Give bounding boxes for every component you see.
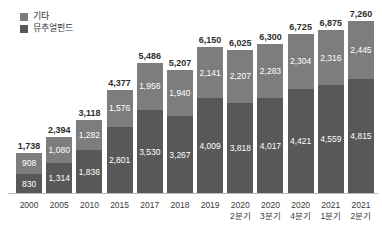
x-axis-tick-label: 20204분기 [286,200,316,221]
bar-total-label: 2,394 [48,126,71,135]
x-axis-tick-line1: 2021 [352,200,371,210]
x-axis-tick-label: 2005 [44,200,74,211]
bar-segment-other[interactable]: 2,207 [227,50,253,103]
bar-segment-value: 1,576 [109,104,130,113]
bar-segment-other[interactable]: 1,282 [76,120,102,151]
x-axis-line [8,193,378,194]
bar-stack[interactable]: 2,2834,017 [257,44,283,194]
x-axis-labels: 200020052010201520172018201920202분기20203… [14,196,376,226]
x-axis-tick-line1: 2000 [20,200,39,210]
bar-segment-other[interactable]: 2,283 [257,44,283,98]
bar-segment-value: 2,316 [320,54,341,63]
bar-total-label: 6,150 [199,36,222,45]
bar-segment-mutual-fund[interactable]: 830 [16,174,42,194]
bar-segment-value: 1,282 [79,131,100,140]
bar-total-label: 6,875 [320,19,343,28]
x-axis-tick-label: 20212분기 [346,200,376,221]
bar-group[interactable]: 6,3002,2834,017 [255,8,285,194]
bar-group[interactable]: 7,2602,4454,815 [346,8,376,194]
bar-segment-mutual-fund[interactable]: 4,559 [318,85,344,194]
bar-segment-value: 4,559 [320,135,341,144]
bar-segment-other[interactable]: 2,316 [318,30,344,85]
bar-total-label: 5,207 [169,59,192,68]
x-axis-tick-line2: 2분기 [225,211,255,222]
bar-group[interactable]: 6,0252,2073,818 [225,8,255,194]
bar-total-label: 4,377 [108,79,131,88]
legend-item-other[interactable]: 기타 [20,12,73,21]
bar-group[interactable]: 3,1181,2821,836 [74,8,104,194]
x-axis-tick-line1: 2020 [291,200,310,210]
legend-swatch-icon [20,13,28,21]
bar-segment-value: 2,207 [230,72,251,81]
bar-segment-mutual-fund[interactable]: 2,801 [107,127,133,194]
x-axis-tick-label: 2019 [195,200,225,211]
bar-segment-mutual-fund[interactable]: 3,530 [137,110,163,194]
bar-stack[interactable]: 2,3164,559 [318,30,344,194]
bar-segment-mutual-fund[interactable]: 4,421 [288,89,314,194]
bar-segment-mutual-fund[interactable]: 4,815 [348,79,374,194]
bar-segment-value: 4,421 [290,137,311,146]
bar-total-label: 3,118 [78,109,100,118]
bar-segment-mutual-fund[interactable]: 4,009 [197,98,223,194]
bar-segment-mutual-fund[interactable]: 1,314 [46,163,72,194]
bar-stack[interactable]: 1,9563,530 [137,63,163,194]
bar-total-label: 6,300 [259,33,282,42]
bar-group[interactable]: 5,4861,9563,530 [135,8,165,194]
chart-legend: 기타뮤추얼펀드 [20,12,73,33]
bar-segment-mutual-fund[interactable]: 4,017 [257,98,283,194]
bar-segment-other[interactable]: 2,304 [288,34,314,89]
bar-segment-value: 1,940 [169,89,190,98]
bar-stack[interactable]: 1,5762,801 [107,90,133,194]
bar-segment-value: 1,080 [49,146,70,155]
bar-stack[interactable]: 2,4454,815 [348,21,374,194]
bar-segment-other[interactable]: 2,445 [348,21,374,79]
bar-stack[interactable]: 2,1414,009 [197,47,223,194]
bar-segment-value: 2,141 [199,69,220,78]
x-axis-tick-line1: 2019 [201,200,220,210]
x-axis-tick-line1: 2017 [140,200,159,210]
x-axis-tick-line1: 2021 [321,200,340,210]
bar-segment-value: 4,009 [199,142,220,151]
bar-segment-mutual-fund[interactable]: 3,267 [167,116,193,194]
bar-segment-value: 3,818 [230,144,251,153]
bar-stack[interactable]: 1,0801,314 [46,137,72,194]
x-axis-tick-label: 2010 [74,200,104,211]
bar-group[interactable]: 6,8752,3164,559 [316,8,346,194]
legend-item-label: 뮤추얼펀드 [33,24,73,33]
bar-segment-other[interactable]: 1,576 [107,90,133,128]
bar-segment-value: 4,815 [350,132,371,141]
bar-group[interactable]: 1,738908830 [14,8,44,194]
bar-segment-value: 1,956 [139,82,160,91]
bar-segment-value: 1,836 [79,168,100,177]
bar-group[interactable]: 6,1502,1414,009 [195,8,225,194]
bar-segment-value: 4,017 [260,142,281,151]
bar-stack[interactable]: 908830 [16,153,42,194]
bar-stack[interactable]: 2,2073,818 [227,50,253,194]
bar-segment-mutual-fund[interactable]: 3,818 [227,103,253,194]
legend-swatch-icon [20,25,28,33]
bar-segment-value: 3,530 [139,148,160,157]
bar-group[interactable]: 5,2071,9403,267 [165,8,195,194]
bar-segment-other[interactable]: 908 [16,153,42,175]
bar-stack[interactable]: 1,2821,836 [76,120,102,194]
bar-group[interactable]: 2,3941,0801,314 [44,8,74,194]
x-axis-tick-line1: 2010 [80,200,99,210]
bar-segment-other[interactable]: 2,141 [197,47,223,98]
legend-item-mutual_fund[interactable]: 뮤추얼펀드 [20,24,73,33]
bar-group[interactable]: 6,7252,3044,421 [286,8,316,194]
bar-segment-mutual-fund[interactable]: 1,836 [76,150,102,194]
x-axis-tick-line2: 2분기 [346,211,376,222]
bar-group[interactable]: 4,3771,5762,801 [105,8,135,194]
bar-stack[interactable]: 2,3044,421 [288,34,314,194]
x-axis-tick-label: 2015 [105,200,135,211]
bar-stack[interactable]: 1,9403,267 [167,70,193,194]
x-axis-tick-line1: 2015 [110,200,129,210]
bar-total-label: 6,725 [289,23,312,32]
x-axis-tick-line1: 2005 [50,200,69,210]
bar-segment-value: 2,801 [109,156,130,165]
bar-segment-other[interactable]: 1,956 [137,63,163,110]
x-axis-tick-line2: 4분기 [286,211,316,222]
bar-segment-other[interactable]: 1,940 [167,70,193,116]
bar-segment-other[interactable]: 1,080 [46,137,72,163]
stacked-bar-chart: 기타뮤추얼펀드 1,7389088302,3941,0801,3143,1181… [0,0,382,230]
